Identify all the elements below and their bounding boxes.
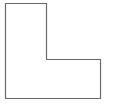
l-shape-diagram — [0, 0, 114, 104]
l-shape-outline — [6, 4, 101, 99]
diagram-canvas — [0, 0, 114, 104]
